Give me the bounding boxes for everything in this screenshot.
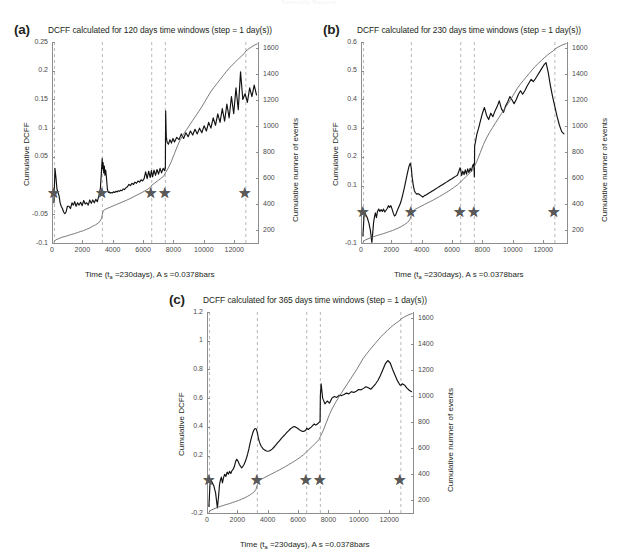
tick-mark bbox=[52, 243, 55, 244]
panel-c-xtick: 12000 bbox=[372, 516, 406, 523]
earthquake-event-star-icon: ★ bbox=[313, 471, 326, 486]
panel-c-ytick-right: 1600 bbox=[418, 314, 434, 321]
panel-a: (a) DCFF calculated for 120 days time wi… bbox=[0, 18, 309, 286]
tick-mark bbox=[411, 370, 414, 371]
earthquake-event-star-icon: ★ bbox=[250, 471, 263, 486]
panel-c-ytick-left: 0.8 bbox=[169, 365, 203, 372]
panel-b-ytick-right: 400 bbox=[572, 200, 584, 207]
panel-b-xtick: 12000 bbox=[526, 246, 560, 253]
earthquake-event-star-icon: ★ bbox=[95, 185, 108, 200]
panel-a-ytick-left: 0.05 bbox=[14, 152, 48, 159]
panel-c-xtick: 6000 bbox=[281, 516, 315, 523]
tick-mark bbox=[256, 204, 259, 205]
tick-mark bbox=[256, 230, 259, 231]
tick-mark bbox=[207, 312, 210, 313]
tick-mark bbox=[361, 157, 364, 158]
tick-mark bbox=[411, 500, 414, 501]
panel-b-title: DCFF calculated for 230 days time window… bbox=[357, 25, 581, 35]
tick-mark bbox=[482, 240, 483, 243]
tick-mark bbox=[113, 240, 114, 243]
journal-header-watermark: Scientific Reports bbox=[0, 0, 618, 6]
panel-c-ytick-right: 200 bbox=[418, 496, 430, 503]
tick-mark bbox=[256, 178, 259, 179]
panel-c-xlabel-post: =230days), A s =0.0378bars bbox=[268, 540, 370, 549]
tick-mark bbox=[361, 128, 364, 129]
panel-c-ytick-right: 400 bbox=[418, 470, 430, 477]
panel-c-ytick-right: 1200 bbox=[418, 366, 434, 373]
tick-mark bbox=[268, 510, 269, 513]
panel-a-tag: (a) bbox=[14, 22, 30, 37]
tick-mark bbox=[565, 74, 568, 75]
tick-mark bbox=[391, 240, 392, 243]
tick-mark bbox=[359, 510, 360, 513]
panel-b-xtick: 0 bbox=[344, 246, 378, 253]
panel-c: (c) DCFF calculated for 365 days time wi… bbox=[155, 288, 464, 553]
earthquake-event-star-icon: ★ bbox=[467, 204, 480, 219]
panel-c-xlabel-pre: Time (t bbox=[240, 540, 265, 549]
earthquake-event-star-icon: ★ bbox=[202, 471, 215, 486]
tick-mark bbox=[207, 398, 210, 399]
tick-mark bbox=[52, 99, 55, 100]
panel-c-ytick-left: 0.6 bbox=[169, 394, 203, 401]
panel-a-ytick-right: 400 bbox=[263, 200, 275, 207]
tick-mark bbox=[513, 240, 514, 243]
panel-a-ytick-right: 1000 bbox=[263, 122, 279, 129]
panel-b-xtick: 2000 bbox=[374, 246, 408, 253]
tick-mark bbox=[543, 240, 544, 243]
panel-b-xtick: 8000 bbox=[465, 246, 499, 253]
panel-a-ytick-right: 600 bbox=[263, 174, 275, 181]
tick-mark bbox=[565, 204, 568, 205]
tick-mark bbox=[361, 71, 364, 72]
panel-c-ytick-left: 0.2 bbox=[169, 451, 203, 458]
earthquake-event-star-icon: ★ bbox=[238, 185, 251, 200]
panel-c-xtick: 8000 bbox=[311, 516, 345, 523]
panel-c-ytick-right: 1400 bbox=[418, 340, 434, 347]
tick-mark bbox=[422, 240, 423, 243]
earthquake-event-star-icon: ★ bbox=[299, 471, 312, 486]
panel-a-ytick-right: 800 bbox=[263, 148, 275, 155]
tick-mark bbox=[52, 128, 55, 129]
tick-mark bbox=[361, 42, 364, 43]
panel-c-tag: (c) bbox=[169, 292, 185, 307]
tick-mark bbox=[361, 186, 364, 187]
panel-a-plot-area bbox=[52, 42, 259, 244]
tick-mark bbox=[452, 240, 453, 243]
panel-a-ytick-left: 0.25 bbox=[14, 38, 48, 45]
tick-mark bbox=[207, 513, 210, 514]
panel-b-xtick: 10000 bbox=[496, 246, 530, 253]
tick-mark bbox=[411, 448, 414, 449]
earthquake-event-star-icon: ★ bbox=[393, 471, 406, 486]
tick-mark bbox=[207, 427, 210, 428]
tick-mark bbox=[256, 152, 259, 153]
tick-mark bbox=[328, 510, 329, 513]
tick-mark bbox=[565, 126, 568, 127]
tick-mark bbox=[256, 126, 259, 127]
panel-b-xlabel-pre: Time (t bbox=[394, 270, 419, 279]
panel-b-ytick-left: 0.2 bbox=[323, 152, 357, 159]
panel-c-ytick-left: -0.2 bbox=[169, 509, 203, 516]
tick-mark bbox=[298, 510, 299, 513]
tick-mark bbox=[565, 48, 568, 49]
tick-mark bbox=[52, 157, 55, 158]
tick-mark bbox=[82, 240, 83, 243]
panel-a-ytick-left: 0.15 bbox=[14, 95, 48, 102]
tick-mark bbox=[207, 369, 210, 370]
panel-a-ytick-right: 1400 bbox=[263, 70, 279, 77]
panel-b-ylabel-right: Cumulative numner of events bbox=[600, 118, 609, 222]
tick-mark bbox=[411, 396, 414, 397]
panel-c-xtick: 0 bbox=[190, 516, 224, 523]
panel-c-ytick-left: 1 bbox=[169, 336, 203, 343]
tick-mark bbox=[52, 214, 55, 215]
panel-b-xtick: 6000 bbox=[435, 246, 469, 253]
panel-a-xlabel: Time (ta =230days), A s =0.0378bars bbox=[85, 270, 215, 280]
tick-mark bbox=[204, 240, 205, 243]
earthquake-event-star-icon: ★ bbox=[404, 204, 417, 219]
panel-c-xtick: 2000 bbox=[220, 516, 254, 523]
earthquake-event-star-icon: ★ bbox=[144, 185, 157, 200]
earthquake-event-star-icon: ★ bbox=[547, 204, 560, 219]
panel-a-xlabel-pre: Time (t bbox=[85, 270, 110, 279]
panel-b-ytick-left: 0.3 bbox=[323, 124, 357, 131]
tick-mark bbox=[411, 318, 414, 319]
panel-b-ytick-left: 0.4 bbox=[323, 95, 357, 102]
panel-b-ytick-right: 600 bbox=[572, 174, 584, 181]
